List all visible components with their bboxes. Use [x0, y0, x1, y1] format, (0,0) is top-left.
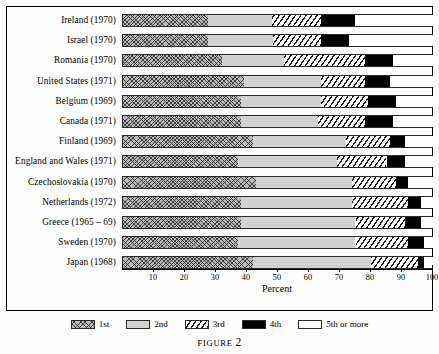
legend-item: 5th or more [298, 319, 368, 329]
bar-row-label: Canada (1971) [0, 115, 116, 128]
bar-segment-5th-or-more [405, 136, 433, 147]
bar-row: United States (1971) [0, 75, 439, 88]
bar-segment-4th [408, 197, 420, 208]
bar-row: Czechoslovakia (1970) [0, 176, 439, 189]
legend-swatch-2nd [126, 320, 150, 329]
bar-segment-3rd [356, 217, 406, 228]
figure-caption: FIGURE 2 [0, 336, 439, 348]
x-axis-tick [215, 269, 216, 272]
bar-segment-4th [405, 217, 421, 228]
bar-row-label: Belgium (1969) [0, 95, 116, 108]
bar-row: Sweden (1970) [0, 236, 439, 249]
bar-segment-2nd [208, 35, 273, 46]
stacked-bar [122, 34, 432, 47]
bar-row-label: Romania (1970) [0, 54, 116, 67]
bar-segment-3rd [346, 136, 389, 147]
bar-segment-1st [123, 76, 244, 87]
bar-segment-3rd [321, 96, 368, 107]
x-axis-tick [370, 269, 371, 272]
legend-swatch-3rd [185, 320, 209, 329]
stacked-bar [122, 54, 432, 67]
legend-item: 4th [242, 319, 282, 329]
bar-row-label: Israel (1970) [0, 34, 116, 47]
bar-segment-3rd [321, 76, 364, 87]
figure-2-container: Ireland (1970)Israel (1970)Romania (1970… [0, 0, 439, 354]
bar-row: Netherlands (1972) [0, 196, 439, 209]
bar-segment-4th [368, 96, 396, 107]
x-axis-tick-label: 90 [397, 273, 405, 282]
stacked-bar [122, 75, 432, 88]
bar-segment-4th [387, 156, 406, 167]
x-axis-tick-label: 40 [242, 273, 250, 282]
bar-segment-5th-or-more [349, 35, 433, 46]
caption-number: 2 [236, 336, 242, 348]
x-axis-tick [184, 269, 185, 272]
legend-item: 1st [71, 319, 110, 329]
bar-row-label: Sweden (1970) [0, 236, 116, 249]
legend: 1st2nd3rd4th5th or more [6, 317, 433, 331]
x-axis: 102030405060708090100 [122, 269, 432, 270]
x-axis-tick [308, 269, 309, 272]
bar-segment-5th-or-more [405, 156, 433, 167]
x-axis-tick [339, 269, 340, 272]
bar-segment-2nd [253, 257, 371, 268]
stacked-bar [122, 14, 432, 27]
x-axis-tick [153, 269, 154, 272]
legend-label: 4th [270, 319, 282, 329]
bar-segment-4th [365, 55, 393, 66]
x-axis-tick-label: 50 [273, 273, 281, 282]
stacked-bar [122, 216, 432, 229]
legend-item: 3rd [185, 319, 225, 329]
bar-row-label: Greece (1965 – 69) [0, 216, 116, 229]
bar-segment-4th [365, 76, 390, 87]
legend-label: 1st [99, 319, 110, 329]
bar-row: Romania (1970) [0, 54, 439, 67]
bar-segment-1st [123, 257, 253, 268]
bar-segment-1st [123, 35, 208, 46]
bar-segment-4th [321, 15, 355, 26]
bar-segment-2nd [244, 76, 322, 87]
bar-segment-2nd [238, 156, 337, 167]
bar-segment-3rd [371, 257, 418, 268]
legend-item: 2nd [126, 319, 168, 329]
legend-label: 5th or more [326, 319, 368, 329]
bar-segment-2nd [241, 96, 322, 107]
stacked-bar [122, 176, 432, 189]
x-axis-tick-label: 100 [426, 273, 438, 282]
bar-segment-3rd [352, 197, 408, 208]
bar-segment-1st [123, 116, 241, 127]
stacked-bar [122, 135, 432, 148]
bar-row-label: Japan (1968) [0, 256, 116, 269]
bar-segment-3rd [273, 35, 321, 46]
bar-segment-3rd [318, 116, 365, 127]
bar-segment-1st [123, 197, 241, 208]
bar-segment-5th-or-more [421, 197, 433, 208]
legend-label: 3rd [213, 319, 225, 329]
x-axis-tick [401, 269, 402, 272]
bar-segment-4th [365, 116, 393, 127]
bar-segment-3rd [284, 55, 365, 66]
bar-segment-2nd [241, 217, 356, 228]
bar-row: Finland (1969) [0, 135, 439, 148]
bar-segment-5th-or-more [396, 96, 433, 107]
bar-segment-2nd [241, 116, 319, 127]
x-axis-tick-label: 70 [335, 273, 343, 282]
bar-segment-1st [123, 177, 256, 188]
bar-row-label: Czechoslovakia (1970) [0, 176, 116, 189]
bar-row: Ireland (1970) [0, 14, 439, 27]
bar-row: Israel (1970) [0, 34, 439, 47]
bar-segment-4th [321, 35, 349, 46]
bar-segment-1st [123, 237, 238, 248]
bar-segment-5th-or-more [424, 237, 433, 248]
bar-row-label: Finland (1969) [0, 135, 116, 148]
bar-segment-5th-or-more [390, 76, 433, 87]
bar-segment-1st [123, 55, 222, 66]
bar-segment-3rd [356, 237, 409, 248]
bar-row-label: Ireland (1970) [0, 14, 116, 27]
bar-segment-1st [123, 217, 241, 228]
stacked-bar [122, 95, 432, 108]
bar-segment-5th-or-more [393, 116, 433, 127]
bar-segment-4th [390, 136, 406, 147]
bar-row-label: United States (1971) [0, 75, 116, 88]
bar-segment-5th-or-more [393, 55, 433, 66]
